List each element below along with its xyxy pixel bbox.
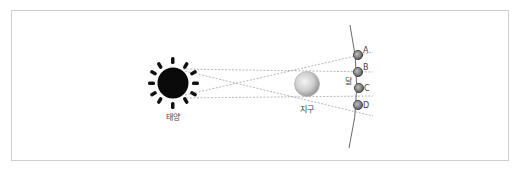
position-label-d: D (363, 101, 369, 110)
earth-label: 지구 (300, 105, 314, 114)
moon-label: 달 (345, 77, 353, 86)
sun-earth-moon-diagram: 태양 지구 A B C D 달 (0, 0, 518, 170)
moon-A: A (353, 46, 369, 60)
moon-D: D (353, 100, 369, 110)
sun-label: 태양 (166, 113, 181, 122)
sun (158, 68, 189, 99)
moon-C: C (354, 83, 370, 93)
position-label-c: C (364, 84, 370, 93)
position-label-b: B (363, 63, 369, 72)
earth (295, 72, 320, 97)
position-label-a: A (363, 46, 369, 55)
